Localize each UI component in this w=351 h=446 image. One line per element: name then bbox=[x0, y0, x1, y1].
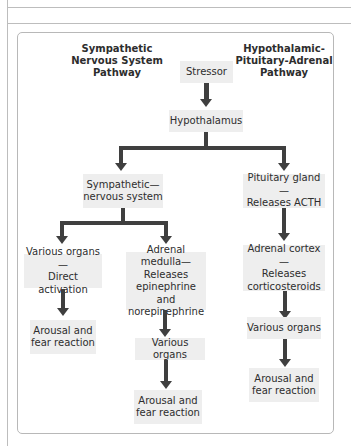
heading-hpa-pathway: Hypothalamic- Pituitary-Adrenal Pathway bbox=[234, 43, 334, 79]
arrow-to-various-direct bbox=[60, 221, 64, 237]
arrow-head-icon bbox=[57, 308, 69, 316]
arrow-cortex-to-organs bbox=[283, 291, 287, 312]
node-adrenal-medulla: Adrenal medulla— Releases epinephrine an… bbox=[126, 252, 206, 310]
connector-sympathetic-split bbox=[60, 221, 168, 225]
arrow-to-pituitary bbox=[282, 146, 286, 164]
node-arousal-mid: Arousal and fear reaction bbox=[134, 390, 202, 424]
arrow-head-icon bbox=[160, 381, 172, 389]
node-arousal-right: Arousal and fear reaction bbox=[249, 368, 319, 402]
arrow-head-icon bbox=[278, 163, 290, 171]
arrow-medulla-to-organs bbox=[163, 310, 167, 330]
page-second-rule bbox=[7, 23, 351, 24]
arrow-to-adrenal-medulla bbox=[164, 221, 168, 237]
node-arousal-left: Arousal and fear reaction bbox=[30, 320, 96, 354]
arrow-head-icon bbox=[115, 163, 127, 171]
node-adrenal-cortex: Adrenal cortex— Releases corticosteroids bbox=[243, 245, 325, 291]
page-top-rule bbox=[7, 7, 351, 8]
node-various-organs-direct: Various organs— Direct activation bbox=[24, 254, 102, 288]
node-stressor: Stressor bbox=[180, 61, 233, 83]
connector-hypothalamus-split bbox=[119, 146, 286, 150]
arrow-head-icon bbox=[200, 99, 212, 107]
arrow-head-icon bbox=[279, 359, 291, 367]
arrow-organs-to-arousal-mid bbox=[164, 360, 168, 382]
arrow-direct-to-arousal bbox=[61, 289, 65, 309]
node-various-organs-right: Various organs bbox=[247, 317, 321, 339]
arrow-organs-to-arousal-right bbox=[283, 339, 287, 360]
arrow-head-icon bbox=[56, 236, 68, 244]
node-sympathetic-nervous-system: Sympathetic— nervous system bbox=[83, 174, 163, 208]
arrow-stressor-hypothalamus bbox=[204, 83, 209, 100]
arrow-to-sympathetic bbox=[119, 146, 123, 164]
heading-sympathetic-pathway: Sympathetic Nervous System Pathway bbox=[62, 43, 172, 79]
arrow-head-icon bbox=[278, 233, 290, 241]
node-pituitary-gland: Pituitary gland— Releases ACTH bbox=[243, 174, 325, 208]
page-left-rule bbox=[7, 0, 8, 446]
node-hypothalamus: Hypothalamus bbox=[169, 110, 243, 132]
node-various-organs-mid: Various organs bbox=[135, 338, 205, 360]
arrow-to-adrenal-cortex bbox=[282, 208, 286, 234]
